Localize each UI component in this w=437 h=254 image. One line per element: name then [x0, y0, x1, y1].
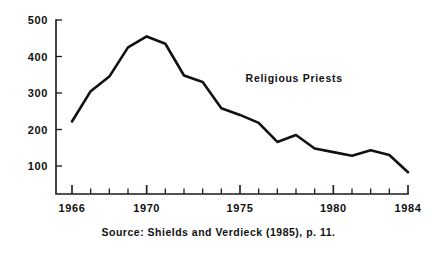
y-tick-label-200: 200 [28, 124, 48, 136]
x-tick-labels: 19661970197519801984 [59, 202, 422, 214]
y-tick-label-300: 300 [28, 87, 48, 99]
y-tick-label-100: 100 [28, 160, 48, 172]
chart-figure: 100200300400500 19661970197519801984 Rel… [0, 0, 437, 254]
x-tick-label-1980: 1980 [320, 202, 347, 214]
x-tick-label-1975: 1975 [227, 202, 254, 214]
y-tick-label-400: 400 [28, 51, 48, 63]
x-tick-label-1970: 1970 [133, 202, 160, 214]
x-tick-label-1984: 1984 [395, 202, 422, 214]
y-tick-marks [56, 20, 62, 166]
axis-frame [56, 20, 408, 194]
x-tick-label-1966: 1966 [59, 202, 86, 214]
series-annotations: Religious Priests [246, 72, 343, 84]
y-tick-label-500: 500 [28, 14, 48, 26]
y-tick-labels: 100200300400500 [28, 14, 48, 172]
axes [56, 20, 408, 194]
data-series-group [72, 36, 408, 172]
source-note: Source: Shields and Verdieck (1985), p. … [0, 226, 437, 238]
series-line-0 [72, 36, 408, 172]
x-tick-marks [72, 185, 408, 194]
line-chart: 100200300400500 19661970197519801984 Rel… [0, 0, 437, 254]
series-annotation-0: Religious Priests [246, 72, 343, 84]
